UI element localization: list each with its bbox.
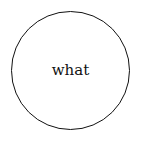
circle-node: what	[11, 11, 130, 130]
node-label: what	[52, 61, 89, 79]
